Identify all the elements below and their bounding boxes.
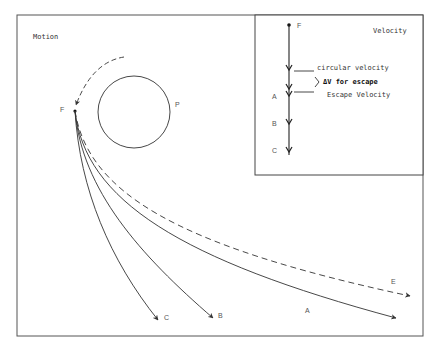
trajectory-c	[75, 111, 158, 320]
trajectory-label-b: B	[218, 312, 223, 319]
delta-v-label: ΔV for escape	[323, 78, 378, 86]
escape-velocity-label: Escape Velocity	[327, 91, 390, 99]
trajectory-label-e: E	[391, 278, 396, 285]
trajectory-label-a: A	[305, 307, 310, 314]
circular-velocity-label: circular velocity	[317, 64, 389, 72]
motion-title: Motion	[33, 33, 58, 41]
velocity-label-f: F	[297, 22, 301, 29]
velocity-title: Velocity	[373, 27, 407, 35]
velocity-level-c: C	[272, 147, 277, 154]
velocity-level-b: B	[272, 120, 277, 127]
planet-label: P	[175, 101, 180, 108]
velocity-level-a: A	[272, 93, 277, 100]
start-label-f: F	[60, 106, 64, 113]
planet-circle	[98, 76, 170, 148]
orbital-escape-diagram: Motion P F C B A E Velocity F circular v…	[0, 0, 438, 347]
trajectory-label-c: C	[164, 314, 169, 321]
trajectory-b	[75, 111, 213, 318]
circular-orbit-arc	[76, 57, 124, 105]
